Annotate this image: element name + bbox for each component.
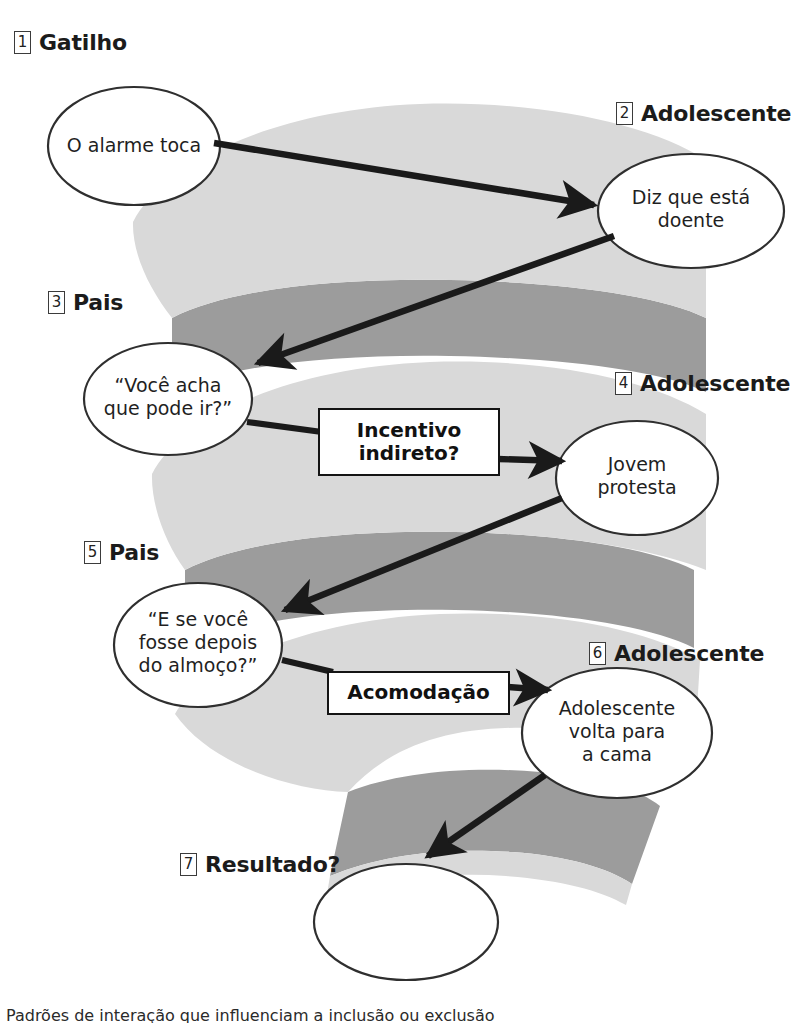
step-number-badge-2: 2: [616, 102, 633, 125]
step-label-5: 5 Pais: [84, 540, 159, 565]
step-number-badge-4: 4: [615, 372, 632, 395]
step-title-5: Pais: [109, 540, 159, 565]
step-title-6: Adolescente: [614, 641, 764, 666]
step-number-badge-5: 5: [84, 541, 101, 564]
arrow-1-to-2: [214, 143, 594, 205]
spiral-diagram: 1 Gatilho 2 Adolescente 3 Pais 4 Adolesc…: [0, 0, 807, 1023]
step-title-2: Adolescente: [641, 101, 791, 126]
arrow-tag-incentivo-to-4: [498, 459, 562, 461]
connector-5-to-tag-acomodacao: [282, 660, 333, 672]
step-label-2: 2 Adolescente: [616, 101, 791, 126]
connector-3-to-tag-incentivo: [247, 422, 322, 432]
node-ellipse-4[interactable]: [556, 421, 718, 535]
step-number-badge-6: 6: [589, 642, 606, 665]
node-ellipse-5[interactable]: [114, 583, 282, 707]
step-label-4: 4 Adolescente: [615, 371, 790, 396]
step-title-1: Gatilho: [39, 30, 127, 55]
arrow-2-to-3: [258, 236, 614, 363]
nodes-and-arrows-layer: [0, 0, 807, 1023]
arrow-4-to-5: [285, 498, 562, 610]
step-label-6: 6 Adolescente: [589, 641, 764, 666]
step-number-badge-3: 3: [48, 291, 65, 314]
figure-caption: Padrões de interação que influenciam a i…: [6, 1006, 806, 1023]
node-ellipse-2[interactable]: [598, 154, 784, 268]
arrow-6-to-7: [428, 775, 545, 856]
step-label-1: 1 Gatilho: [14, 30, 127, 55]
arrow-tag-acomodacao-to-6: [508, 687, 548, 690]
tag-box-acomodacao[interactable]: Acomodação: [327, 671, 510, 715]
node-ellipse-1[interactable]: [48, 87, 220, 205]
node-ellipse-6[interactable]: [522, 668, 712, 798]
node-ellipse-3[interactable]: [84, 343, 252, 455]
step-number-badge-1: 1: [14, 31, 31, 54]
node-ellipse-7[interactable]: [314, 864, 498, 980]
step-title-3: Pais: [73, 290, 123, 315]
tag-box-incentivo-indireto[interactable]: Incentivoindireto?: [318, 408, 500, 476]
step-title-7: Resultado?: [205, 852, 340, 877]
step-label-7: 7 Resultado?: [180, 852, 340, 877]
step-number-badge-7: 7: [180, 853, 197, 876]
step-label-3: 3 Pais: [48, 290, 123, 315]
step-title-4: Adolescente: [640, 371, 790, 396]
